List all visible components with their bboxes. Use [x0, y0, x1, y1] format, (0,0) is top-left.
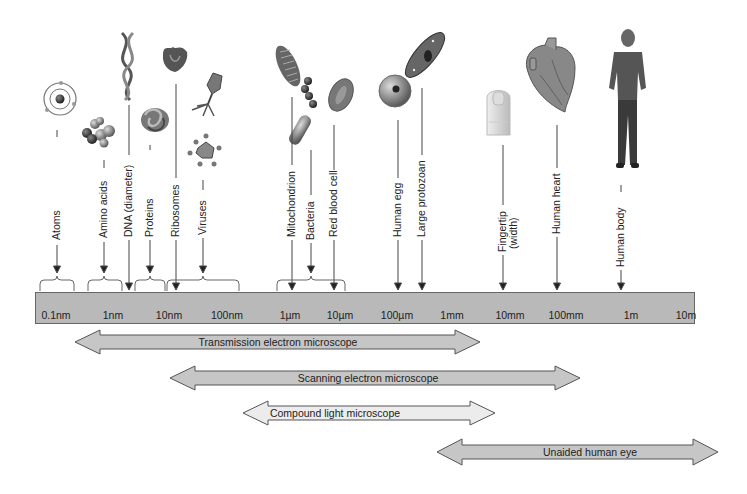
scale-tick: 10µm — [327, 309, 353, 321]
human-eye-label: Unaided human eye — [543, 446, 637, 458]
fingertip-icon — [487, 91, 510, 136]
bacteria-icon — [287, 77, 317, 147]
scale-tick: 0.1nm — [41, 309, 70, 321]
diagram-graphics — [0, 0, 747, 494]
scale-tick: 100mm — [548, 309, 583, 321]
scale-tick: 10m — [676, 309, 696, 321]
scale-tick: 1mm — [440, 309, 463, 321]
tem-label: Transmission electron microscope — [199, 336, 358, 348]
label-large-protozoan: Large protozoan — [416, 161, 427, 237]
label-amino-acids: Amino acids — [98, 181, 109, 238]
range-brackets — [40, 276, 345, 291]
mitochondrion-icon — [271, 42, 306, 89]
protein-icon — [141, 108, 169, 132]
label-human-heart: Human heart — [551, 173, 562, 234]
atom-icon — [44, 81, 76, 115]
label-fingertip-width: (width) — [508, 217, 519, 249]
scale-tick: 10nm — [156, 309, 182, 321]
label-mitochondrion: Mitochondrion — [286, 171, 297, 237]
amino-acid-icon — [82, 117, 115, 148]
scale-tick: 1nm — [103, 309, 123, 321]
scale-tick: 100µm — [381, 309, 413, 321]
virus-icon — [188, 73, 223, 167]
heart-icon — [526, 38, 575, 112]
label-ribosomes: Ribosomes — [170, 184, 181, 237]
human-body-icon — [609, 29, 646, 168]
scale-tick: 1µm — [280, 309, 301, 321]
scale-tick: 1m — [624, 309, 639, 321]
human-egg-icon — [379, 75, 411, 107]
label-bacteria: Bacteria — [305, 201, 316, 240]
label-proteins: Proteins — [144, 198, 155, 237]
scale-tick: 100nm — [211, 309, 243, 321]
dna-helix-icon — [122, 33, 133, 100]
size-scale-bar — [35, 292, 695, 324]
sem-label: Scanning electron microscope — [298, 372, 439, 384]
ribosome-icon — [163, 47, 187, 72]
protozoan-icon — [399, 27, 450, 83]
label-human-egg: Human egg — [392, 183, 403, 237]
label-dna: DNA (diameter) — [123, 165, 134, 237]
red-blood-cell-icon — [324, 75, 358, 115]
label-atoms: Atoms — [51, 210, 62, 240]
scale-tick: 10mm — [495, 309, 524, 321]
label-red-blood-cell: Red blood cell — [328, 170, 339, 237]
label-viruses: Viruses — [197, 200, 208, 235]
light-microscope-label: Compound light microscope — [270, 407, 400, 419]
label-human-body: Human body — [615, 207, 626, 267]
